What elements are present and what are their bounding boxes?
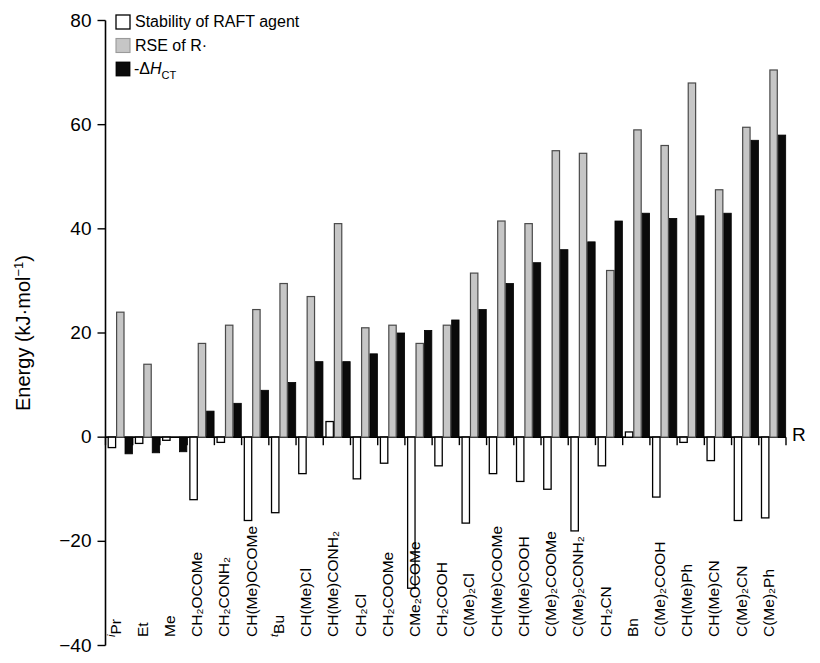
y-axis-ticks: 806040200−20−40 — [59, 10, 105, 656]
legend-label: RSE of R· — [135, 37, 207, 54]
x-category-label-group: CH(Me)COOMe — [488, 526, 505, 637]
bar-dhct — [588, 242, 595, 437]
bar-dhct — [452, 320, 459, 437]
x-category-label: tBu — [268, 615, 287, 637]
bar-stability — [761, 437, 768, 518]
bar-dhct — [533, 263, 540, 437]
bar-dhct — [724, 213, 731, 437]
x-category-label-group: C(Me)₂CN — [733, 566, 750, 637]
bar-stability — [517, 437, 524, 481]
bar-rse — [688, 83, 695, 437]
bar-stability — [326, 422, 333, 438]
bar-rse — [443, 325, 450, 437]
y-tick-label: −40 — [59, 635, 91, 656]
x-category-label-group: CH₂CN — [597, 586, 614, 637]
bar-dhct — [152, 437, 159, 453]
bar-dhct — [561, 250, 568, 437]
bar-dhct — [697, 216, 704, 437]
legend-swatch-stability — [116, 15, 130, 29]
bar-dhct — [397, 333, 404, 437]
bar-rse — [416, 343, 423, 437]
x-category-label: CMe₂OCOMe — [406, 541, 423, 637]
x-category-label-group: CH(Me)OCOMe — [243, 526, 260, 637]
bar-stability — [598, 437, 605, 466]
x-category-label: C(Me)₂COOMe — [542, 531, 559, 637]
bar-stability — [108, 437, 115, 447]
x-category-label-group: CH₂Cl — [352, 594, 369, 637]
x-category-label: CH(Me)COOMe — [488, 526, 505, 637]
x-category-label: Et — [134, 622, 151, 637]
bar-rse — [470, 273, 477, 437]
legend-swatch-rse — [116, 39, 130, 53]
bar-rse — [525, 224, 532, 438]
bar-rse — [715, 190, 722, 437]
bar-rse — [770, 70, 777, 437]
bar-stability — [435, 437, 442, 466]
bar-rse — [198, 343, 205, 437]
bar-dhct — [370, 354, 377, 437]
y-tick-label: 0 — [81, 426, 92, 447]
bar-stability — [734, 437, 741, 520]
bar-stability — [653, 437, 660, 497]
y-axis-title: Energy (kJ·mol−1) — [11, 255, 35, 411]
bar-dhct — [751, 140, 758, 437]
bar-rse — [607, 271, 614, 438]
bar-rse — [634, 130, 641, 437]
x-category-label: CH(Me)CONH₂ — [324, 531, 341, 637]
x-category-label-group: CH(Me)COOH — [515, 536, 532, 637]
x-category-label-group: C(Me)₂Cl — [460, 573, 477, 637]
bar-stability — [353, 437, 360, 479]
bar-rse — [253, 310, 260, 438]
x-category-label: CH₂COOH — [433, 562, 450, 637]
bar-dhct — [261, 390, 268, 437]
x-category-label-group: CH₂CONH₂ — [215, 557, 232, 637]
bar-stability — [680, 437, 687, 442]
x-category-label-group: CMe₂OCOMe — [406, 541, 423, 637]
bar-dhct — [642, 213, 649, 437]
x-category-label: CH(Me)Cl — [297, 568, 314, 637]
bar-dhct — [288, 382, 295, 437]
bar-rse — [280, 284, 287, 438]
bar-dhct — [343, 362, 350, 438]
bar-rse — [552, 151, 559, 437]
x-category-label-group: tBu — [268, 615, 287, 637]
x-category-label-group: CH(Me)Cl — [297, 568, 314, 637]
legend-swatch-dhct — [116, 62, 130, 76]
x-category-label: CH₂CONH₂ — [215, 557, 232, 637]
x-category-label: iPr — [105, 619, 124, 637]
y-tick-label: 20 — [70, 322, 91, 343]
bar-stability — [217, 437, 224, 442]
bar-dhct — [316, 362, 323, 438]
x-category-label: C(Me)₂Cl — [460, 573, 477, 637]
x-category-label-group: CH₂COOH — [433, 562, 450, 637]
bar-dhct — [207, 411, 214, 437]
x-category-label-group: Me — [161, 615, 178, 637]
x-category-label: C(Me)₂CN — [733, 566, 750, 637]
bar-rse — [661, 146, 668, 438]
bar-dhct — [479, 310, 486, 438]
bar-rse — [307, 297, 314, 438]
bar-rse — [117, 312, 124, 437]
bar-stability — [244, 437, 251, 520]
bar-rse — [498, 221, 505, 437]
bar-dhct — [506, 284, 513, 438]
x-category-label-group: CH(Me)Ph — [678, 564, 695, 637]
x-category-label-group: CH(Me)CN — [705, 560, 722, 637]
bar-rse — [389, 325, 396, 437]
x-category-label-group: iPr — [105, 619, 124, 637]
bar-stability — [489, 437, 496, 473]
bar-stability — [190, 437, 197, 500]
x-category-label-group: Et — [134, 622, 151, 637]
bar-stability — [299, 437, 306, 473]
bar-dhct — [179, 437, 186, 452]
x-category-label: C(Me)₂CONH₂ — [569, 536, 586, 637]
legend-label: -ΔHCT — [134, 60, 177, 81]
x-category-label-group: CH₂OCOMe — [188, 552, 205, 637]
x-axis-title: R — [792, 424, 806, 445]
legend-label: Stability of RAFT agent — [135, 13, 300, 30]
bar-dhct — [125, 437, 132, 454]
bar-stability — [625, 432, 632, 437]
bar-stability — [571, 437, 578, 531]
x-category-label: Bn — [624, 618, 641, 637]
x-category-label: Me — [161, 615, 178, 637]
